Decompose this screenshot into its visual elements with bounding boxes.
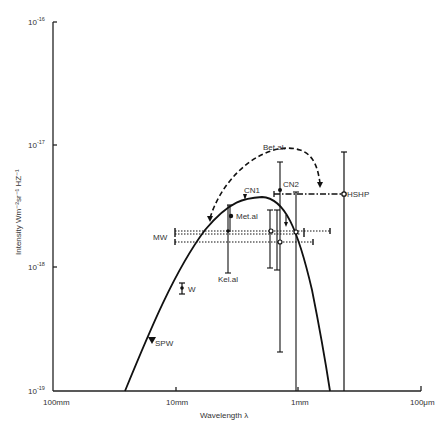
cn2-point <box>278 188 282 192</box>
label-kelal: Kel.al <box>218 275 238 284</box>
y-tick-1e-18: 10-18 <box>28 261 45 272</box>
x-axis-title: Wavelength λ <box>200 411 248 420</box>
label-hshp: HSHP <box>347 190 369 199</box>
peak-errorbars <box>267 192 299 391</box>
label-cn1: CN1 <box>244 186 261 195</box>
y-axis-title: Intensity Wm⁻²sr⁻¹ HZ⁻¹ <box>14 169 23 255</box>
x-tick-10mm: 10mm <box>166 398 189 407</box>
label-w: W <box>188 285 196 294</box>
x-tick-100um: 100μm <box>410 398 435 407</box>
chart: 10-16 10-17 10-18 10-19 100mm 10mm 1mm 1… <box>0 0 448 436</box>
x-tick-100mm: 100mm <box>43 398 70 407</box>
betal-arc <box>210 148 320 218</box>
label-betal: Bet.al. <box>263 143 286 152</box>
metal-point <box>229 214 233 218</box>
betal-arrow-right <box>317 182 323 188</box>
y-tick-1e-17: 10-17 <box>28 139 45 150</box>
label-spw: SPW <box>155 339 174 348</box>
label-cn2: CN2 <box>283 180 300 189</box>
hshp-point <box>342 192 346 196</box>
label-mw: MW <box>153 233 168 242</box>
w-point <box>180 286 184 290</box>
x-tick-1mm: 1mm <box>291 398 309 407</box>
label-metal: Met.al <box>236 212 258 221</box>
y-tick-1e-16: 10-16 <box>28 16 45 27</box>
axes <box>53 22 421 391</box>
y-tick-1e-19: 10-19 <box>28 385 45 396</box>
